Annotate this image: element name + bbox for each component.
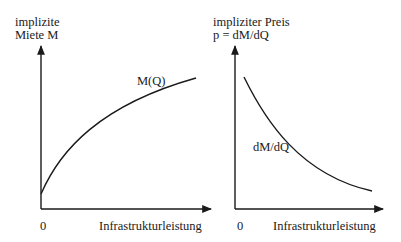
diagram-canvas bbox=[0, 0, 401, 242]
left-curve-MQ bbox=[41, 78, 196, 194]
left-curve-label: M(Q) bbox=[137, 74, 165, 88]
left-y-axis-label-line2: Miete M bbox=[15, 28, 58, 42]
right-y-axis-label-line1: impliziter Preis bbox=[213, 15, 290, 29]
right-x-axis-label: Infrastrukturleistung bbox=[273, 219, 376, 233]
left-origin-label: 0 bbox=[40, 219, 46, 233]
right-y-axis-label-line2: p = dM/dQ bbox=[213, 28, 269, 42]
left-y-axis-label-line1: implizite bbox=[15, 15, 59, 29]
right-curve-label: dM/dQ bbox=[253, 140, 289, 154]
right-origin-label: 0 bbox=[237, 219, 243, 233]
right-curve-dMdQ bbox=[244, 77, 372, 191]
left-x-axis-label: Infrastrukturleistung bbox=[99, 219, 202, 233]
